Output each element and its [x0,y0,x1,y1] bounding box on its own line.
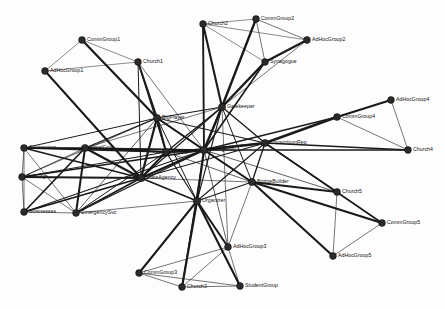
node-marker[interactable] [137,174,145,182]
network-canvas: CommGroup1AdHocGroup1Church1Church2CommG… [0,0,445,309]
node-label: ConsortiumRep [270,139,307,145]
network-node[interactable]: PubOrgs [19,173,49,180]
node-marker[interactable] [193,197,201,205]
node-marker[interactable] [136,270,143,277]
node-label: LocalGovt [90,144,114,150]
node-label: Organizer [202,197,225,203]
node-marker[interactable] [334,189,341,196]
node-label: EmergencySvc [81,209,117,215]
node-label: CommGroup5 [387,219,420,225]
network-node[interactable]: Church4 [405,146,433,153]
node-marker[interactable] [388,97,395,104]
node-marker[interactable] [21,145,28,152]
node-label: Church2 [208,20,228,26]
node-label: Military [171,148,188,154]
node-label: CommGroup2 [261,15,294,21]
node-marker[interactable] [379,220,386,227]
node-marker[interactable] [218,103,225,110]
node-marker[interactable] [248,178,255,185]
node-label: Gatekeeper [227,103,255,109]
node-label: AdHocGroup5 [338,252,371,258]
node-marker[interactable] [179,284,186,291]
node-marker[interactable] [253,16,260,23]
node-label: AdHocGroup2 [312,36,345,42]
node-label: Church5 [342,188,362,194]
node-label: StateAgency [146,174,176,180]
node-marker[interactable] [225,244,232,251]
node-marker[interactable] [334,114,341,121]
node-marker[interactable] [73,210,80,217]
node-marker[interactable] [19,174,26,181]
node-label: CommGroup4 [342,113,375,119]
node-marker[interactable] [304,37,311,44]
node-marker[interactable] [162,148,169,155]
node-label: AdHocGroup1 [50,67,83,73]
node-marker[interactable] [405,147,412,154]
network-node[interactable]: Church2 [200,20,228,27]
node-label: Synagogue [270,58,297,64]
node-marker[interactable] [237,283,244,290]
node-label: AdHocGroup4 [396,96,429,102]
node-label: FedAgency [209,146,236,152]
node-label: Church3 [187,283,207,289]
network-edge [203,24,204,150]
node-label: BridgeBuilder [257,178,289,184]
node-label: Contractors [29,144,57,150]
node-marker[interactable] [135,59,142,66]
node-marker[interactable] [79,37,86,44]
network-node[interactable]: Synagogue [262,58,297,65]
node-marker[interactable] [262,59,269,66]
network-node[interactable]: Contractors [21,144,57,151]
node-marker[interactable] [81,144,88,151]
node-marker[interactable] [200,21,207,28]
node-label: StudentGroup [245,282,278,288]
node-marker[interactable] [200,146,208,154]
network-node[interactable]: Church5 [334,188,362,195]
node-label: CommGroup1 [87,36,120,42]
network-node[interactable]: Church3 [179,283,207,290]
node-label: PubOrgs [27,173,48,179]
node-marker[interactable] [21,209,28,216]
node-label: Church4 [413,146,433,152]
network-graph-figure: CommGroup1AdHocGroup1Church1Church2CommG… [0,0,445,309]
node-label: Church1 [143,58,163,64]
network-node[interactable]: Businesses [21,208,57,215]
node-marker[interactable] [261,139,268,146]
node-label: Businesses [29,208,56,214]
node-label: CommGroup3 [144,269,177,275]
node-label: AdHocGroup3 [233,243,266,249]
network-node[interactable]: Church1 [135,58,163,65]
node-marker[interactable] [42,68,49,75]
node-label: BigPlayer [162,114,185,120]
node-marker[interactable] [330,253,337,260]
node-marker[interactable] [153,114,160,121]
